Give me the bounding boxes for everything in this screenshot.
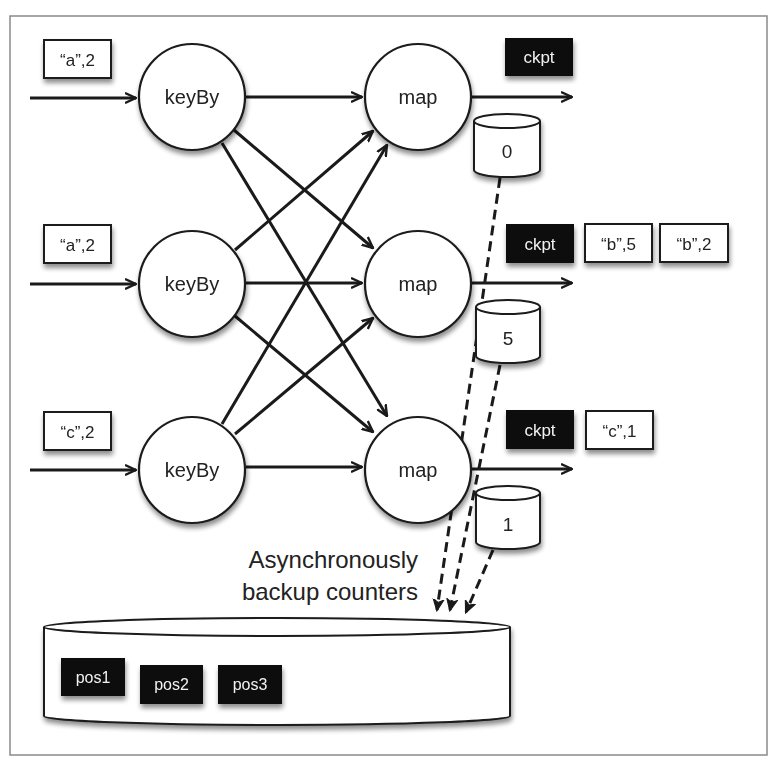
map-node-1: map bbox=[365, 44, 471, 150]
counter-state-cylinder-1: 0 bbox=[474, 114, 540, 177]
input-record-label: “a”,2 bbox=[60, 51, 95, 70]
checkpoint-barrier-1: ckpt bbox=[505, 38, 573, 76]
counter-value: 0 bbox=[502, 141, 513, 162]
input-record-3: “c”,2 bbox=[44, 412, 111, 450]
keyby-node-label: keyBy bbox=[165, 459, 219, 481]
map-node-3: map bbox=[365, 417, 471, 523]
input-record-1: “a”,2 bbox=[44, 40, 111, 78]
output-record-c1: “c”,1 bbox=[586, 411, 653, 449]
storage-position-3: pos3 bbox=[218, 665, 282, 704]
storage-position-label: pos3 bbox=[233, 676, 268, 693]
backup-caption-line-2: backup counters bbox=[242, 578, 418, 605]
storage-position-label: pos1 bbox=[76, 669, 111, 686]
counter-state-cylinder-2: 5 bbox=[476, 300, 540, 363]
map-node-label: map bbox=[399, 459, 438, 481]
keyby-map-checkpoint-diagram: “a”,2 “a”,2 “c”,2 keyBy keyBy keyBy map … bbox=[0, 0, 780, 764]
keyby-node-label: keyBy bbox=[165, 273, 219, 295]
counter-state-cylinder-3: 1 bbox=[476, 486, 540, 549]
storage-position-1: pos1 bbox=[61, 658, 125, 696]
checkpoint-barrier-2: ckpt bbox=[506, 224, 574, 263]
input-record-2: “a”,2 bbox=[44, 225, 111, 263]
checkpoint-barrier-label: ckpt bbox=[524, 421, 555, 440]
map-node-2: map bbox=[365, 231, 471, 337]
input-record-label: “a”,2 bbox=[60, 236, 95, 255]
keyby-node-label: keyBy bbox=[165, 86, 219, 108]
keyby-node-2: keyBy bbox=[139, 231, 245, 337]
backup-caption-line-1: Asynchronously bbox=[249, 546, 418, 573]
output-record-b2: “b”,2 bbox=[660, 224, 728, 262]
map-node-label: map bbox=[399, 86, 438, 108]
checkpoint-barrier-label: ckpt bbox=[523, 48, 554, 67]
output-record-label: “c”,1 bbox=[603, 422, 637, 441]
storage-position-2: pos2 bbox=[140, 665, 203, 704]
output-record-b5: “b”,5 bbox=[585, 224, 652, 262]
counter-value: 5 bbox=[503, 328, 514, 349]
map-node-label: map bbox=[399, 273, 438, 295]
checkpoint-barrier-3: ckpt bbox=[506, 410, 574, 449]
counter-value: 1 bbox=[503, 514, 514, 535]
keyby-node-1: keyBy bbox=[139, 44, 245, 150]
checkpoint-barrier-label: ckpt bbox=[524, 235, 555, 254]
keyby-node-3: keyBy bbox=[139, 417, 245, 523]
storage-position-label: pos2 bbox=[154, 676, 189, 693]
output-record-label: “b”,5 bbox=[601, 235, 636, 254]
output-record-label: “b”,2 bbox=[677, 235, 712, 254]
input-record-label: “c”,2 bbox=[61, 423, 95, 442]
